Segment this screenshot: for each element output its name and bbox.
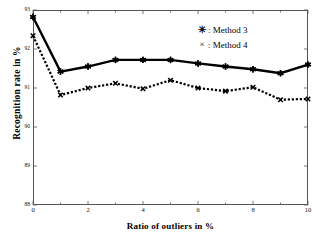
legend-label-method-3: : Method 3 — [208, 25, 248, 35]
x-axis-title: Ratio of outliers in % — [33, 221, 308, 231]
legend-label-method-4: : Method 4 — [208, 40, 248, 50]
y-tick-label: 89 — [8, 163, 30, 169]
x-axis-tick-labels: 0246810 — [33, 207, 308, 219]
cross-marker-icon: × — [196, 40, 208, 49]
legend-item-method-4: × : Method 4 — [196, 37, 306, 52]
x-tick-label: 4 — [133, 207, 153, 214]
x-tick-label: 0 — [23, 207, 43, 214]
x-tick-label: 10 — [298, 207, 318, 214]
x-tick-label: 8 — [243, 207, 263, 214]
legend-item-method-3: ✳ : Method 3 — [196, 22, 306, 37]
data-point-marker — [58, 93, 63, 98]
data-point-marker — [278, 97, 283, 102]
x-tick-label: 2 — [78, 207, 98, 214]
chart-figure: 888990919293 0246810 Recognition rate in… — [0, 0, 327, 244]
data-point-marker — [306, 97, 311, 102]
asterisk-marker-icon: ✳ — [196, 25, 208, 35]
chart-legend: ✳ : Method 3 × : Method 4 — [196, 22, 306, 52]
y-tick-label: 93 — [8, 7, 30, 13]
x-tick-label: 6 — [188, 207, 208, 214]
y-axis-title: Recognition rate in % — [12, 23, 22, 163]
